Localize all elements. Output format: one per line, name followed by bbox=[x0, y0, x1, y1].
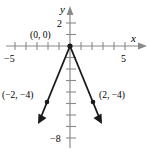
x-axis bbox=[6, 43, 147, 50]
x-axis-label: x bbox=[130, 32, 136, 44]
y-axis-ticks bbox=[66, 23, 76, 138]
graph-figure: x y −5 5 2 −8 (0, 0) (−2, −4) (2, −4) bbox=[0, 0, 149, 154]
point-label-origin: (0, 0) bbox=[30, 30, 51, 41]
point-marker-left bbox=[45, 100, 50, 105]
y-tick-label-two: 2 bbox=[57, 18, 62, 29]
y-axis-label: y bbox=[59, 3, 65, 15]
point-marker-origin bbox=[67, 43, 72, 48]
point-label-left: (−2, −4) bbox=[2, 90, 33, 101]
y-tick-label-negative-eight: −8 bbox=[50, 133, 61, 144]
point-marker-right bbox=[91, 100, 96, 105]
coordinate-plane-svg: x y −5 5 2 −8 (0, 0) (−2, −4) (2, −4) bbox=[0, 0, 149, 154]
y-axis-arrowhead bbox=[67, 6, 74, 15]
x-axis-arrowhead bbox=[138, 43, 147, 50]
point-label-right: (2, −4) bbox=[99, 90, 125, 101]
x-tick-label-five: 5 bbox=[121, 53, 126, 64]
x-tick-label-negative-five: −5 bbox=[4, 53, 15, 64]
